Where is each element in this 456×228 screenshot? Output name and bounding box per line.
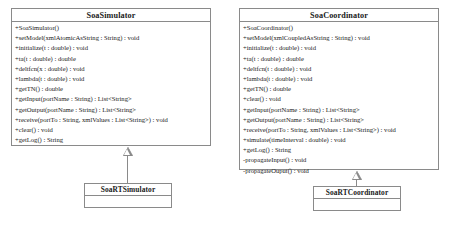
- member-list-soartcoordinator: [314, 199, 400, 210]
- class-member: +initialize(t : double) : void: [12, 43, 210, 53]
- class-member: +lambda(t : double) : void: [12, 74, 210, 84]
- class-member: +receive(portTo : String, xmlValues : Li…: [240, 125, 438, 135]
- class-name-soasimulator: SoaSimulator: [12, 9, 210, 22]
- class-member: +deltfcn(x : double) : void: [12, 64, 210, 74]
- class-member: +getTN() : double: [12, 84, 210, 94]
- class-member: +getInput(portName : String) : List<Stri…: [12, 94, 210, 104]
- class-member: +getOutput(portName : String) : List<Str…: [240, 115, 438, 125]
- class-member: +SoaSimulator(): [12, 23, 210, 33]
- class-name-soartsimulator: SoaRTSimulator: [85, 184, 171, 196]
- uml-class-diagram-canvas: SoaSimulator +SoaSimulator() +setModel(x…: [0, 0, 456, 228]
- class-member: +getLog() : String: [240, 145, 438, 155]
- class-member: +ta(t : double) : double: [12, 54, 210, 64]
- class-member: -propagateOuput() : void: [240, 166, 438, 176]
- uml-class-soartcoordinator[interactable]: SoaRTCoordinator: [313, 186, 401, 211]
- class-member: +ta(t : double) : double: [240, 54, 438, 64]
- uml-class-soartsimulator[interactable]: SoaRTSimulator: [84, 183, 172, 208]
- class-member: +SoaCoordinator(): [240, 23, 438, 33]
- class-member: +getLog() : String: [12, 135, 210, 145]
- generalization-triangle-icon: [123, 147, 133, 156]
- member-list-soasimulator: +SoaSimulator() +setModel(xmlAtomicAsStr…: [12, 22, 210, 147]
- generalization-line-soartsimulator: [127, 156, 128, 183]
- class-name-soacoordinator: SoaCoordinator: [240, 9, 438, 22]
- class-member: -propagateInput() : void: [240, 155, 438, 165]
- class-name-soartcoordinator: SoaRTCoordinator: [314, 187, 400, 199]
- member-list-soacoordinator: +SoaCoordinator() +setModel(xmlCoupledAs…: [240, 22, 438, 178]
- class-member: +getInput(portName : String) : List<Stri…: [240, 105, 438, 115]
- class-member: +getOutput(portName : String) : List<Str…: [12, 105, 210, 115]
- class-member: +clear() : void: [240, 94, 438, 104]
- class-member: +simulate(timeInterval : double) : void: [240, 135, 438, 145]
- member-list-soartsimulator: [85, 196, 171, 207]
- uml-class-soasimulator[interactable]: SoaSimulator +SoaSimulator() +setModel(x…: [11, 8, 211, 146]
- class-member: +getTN() : double: [240, 84, 438, 94]
- class-member: +deltfcn(t : double) : void: [240, 64, 438, 74]
- uml-class-soacoordinator[interactable]: SoaCoordinator +SoaCoordinator() +setMod…: [239, 8, 439, 170]
- class-member: +setModel(xmlCoupledAsString : String) :…: [240, 33, 438, 43]
- generalization-triangle-icon: [352, 171, 362, 180]
- class-member: +receive(portTo : String, xmlValues : Li…: [12, 115, 210, 125]
- class-member: +lambda(t : double) : void: [240, 74, 438, 84]
- class-member: +clear() : void: [12, 125, 210, 135]
- class-member: +initialize(t : double) : void: [240, 43, 438, 53]
- class-member: +setModel(xmlAtomicAsString : String) : …: [12, 33, 210, 43]
